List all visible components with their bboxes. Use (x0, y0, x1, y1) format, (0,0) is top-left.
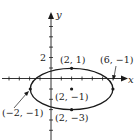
point-left (29, 87, 32, 90)
label-center: (2, −1) (55, 91, 89, 102)
x-axis-arrow-icon (121, 76, 128, 82)
label-left: (−2, −1) (2, 107, 43, 118)
y-axis-arrow-icon (48, 12, 54, 19)
label-top: (2, 1) (60, 54, 86, 65)
label-right: (6, −1) (100, 54, 134, 65)
label-bottom: (2, −3) (55, 112, 89, 123)
point-right (111, 87, 114, 90)
ellipse-graph: y x 2 (2, 1) (6, −1) (2, −1) (−2, −1) (2… (0, 0, 135, 140)
point-top (70, 67, 73, 70)
y-axis-label: y (55, 9, 62, 20)
y-tick-label-2: 2 (40, 52, 46, 63)
point-bottom (70, 108, 73, 111)
x-axis-label: x (128, 74, 134, 85)
